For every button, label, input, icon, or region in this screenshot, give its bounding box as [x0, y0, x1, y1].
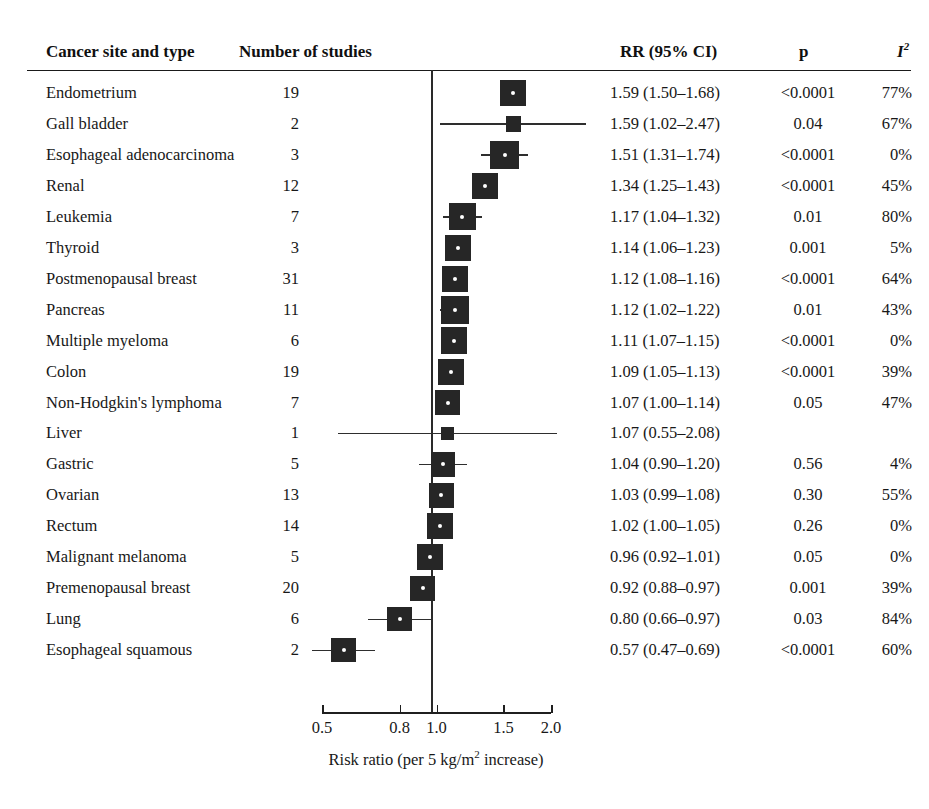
effect-size-point: [453, 277, 457, 281]
header-divider-rule: [27, 70, 911, 71]
row-value-rr-ci: 1.14 (1.06–1.23): [610, 240, 720, 257]
row-value-i-squared: 55%: [860, 487, 912, 504]
x-axis-tick: [503, 705, 505, 713]
column-header-cancer-site: Cancer site and type: [46, 42, 194, 62]
row-value-rr-ci: 0.92 (0.88–0.97): [610, 580, 720, 597]
row-label-cancer-site: Gall bladder: [46, 116, 128, 133]
row-value-i-squared: 84%: [860, 611, 912, 628]
row-label-cancer-site: Rectum: [46, 518, 97, 535]
row-value-i-squared: 47%: [860, 395, 912, 412]
confidence-interval-line: [440, 309, 470, 311]
row-value-i-squared: 39%: [860, 580, 912, 597]
x-axis-tick-label: 0.8: [389, 718, 410, 738]
effect-size-point: [342, 648, 346, 652]
row-value-rr-ci: 0.80 (0.66–0.97): [610, 611, 720, 628]
column-header-i-squared: I2: [897, 40, 909, 62]
row-value-num-studies: 5: [277, 549, 299, 566]
effect-size-point: [456, 246, 460, 250]
i-squared-letter: I: [897, 42, 904, 61]
x-axis-tick: [551, 705, 553, 713]
confidence-interval-line: [415, 588, 431, 590]
row-value-p: 0.01: [760, 209, 856, 226]
forest-plot-figure: Cancer site and type Number of studies R…: [0, 0, 929, 809]
row-value-num-studies: 14: [277, 518, 299, 535]
effect-size-marker: [472, 173, 498, 199]
confidence-interval-line: [437, 526, 445, 528]
effect-size-point: [503, 153, 507, 157]
effect-size-point: [511, 91, 515, 95]
row-label-cancer-site: Lung: [46, 611, 81, 628]
row-value-num-studies: 20: [277, 580, 299, 597]
x-axis-tick: [322, 705, 324, 713]
effect-size-marker: [441, 296, 469, 324]
row-value-rr-ci: 0.96 (0.92–1.01): [610, 549, 720, 566]
column-header-num-studies: Number of studies: [239, 42, 372, 62]
axis-title-main: Risk ratio (per 5 kg/m: [329, 750, 475, 769]
row-value-num-studies: 19: [277, 85, 299, 102]
effect-size-marker: [490, 141, 518, 169]
axis-title-tail: increase): [480, 750, 544, 769]
column-header-p-value: p: [799, 42, 808, 62]
effect-size-marker: [506, 116, 521, 131]
effect-size-marker: [449, 203, 476, 230]
row-value-p: <0.0001: [760, 178, 856, 195]
row-value-num-studies: 13: [277, 487, 299, 504]
effect-size-marker: [435, 390, 461, 416]
row-label-cancer-site: Esophageal squamous: [46, 642, 192, 659]
row-value-rr-ci: 1.17 (1.04–1.32): [610, 209, 720, 226]
row-value-i-squared: 0%: [860, 147, 912, 164]
row-value-i-squared: 64%: [860, 271, 912, 288]
row-value-num-studies: 3: [277, 147, 299, 164]
x-axis-tick-label: 1.5: [493, 718, 514, 738]
row-value-p: <0.0001: [760, 642, 856, 659]
row-value-num-studies: 7: [277, 209, 299, 226]
row-value-num-studies: 6: [277, 333, 299, 350]
row-value-i-squared: 0%: [860, 333, 912, 350]
effect-size-point: [438, 524, 442, 528]
row-value-p: 0.05: [760, 395, 856, 412]
row-value-p: 0.05: [760, 549, 856, 566]
confidence-interval-line: [368, 619, 432, 621]
row-value-p: 0.001: [760, 580, 856, 597]
row-value-p: <0.0001: [760, 271, 856, 288]
row-value-rr-ci: 1.04 (0.90–1.20): [610, 456, 720, 473]
row-value-i-squared: 60%: [860, 642, 912, 659]
row-value-num-studies: 11: [277, 302, 299, 319]
row-label-cancer-site: Colon: [46, 364, 86, 381]
row-value-num-studies: 2: [277, 116, 299, 133]
row-value-p: <0.0001: [760, 147, 856, 164]
x-axis-tick-label: 2.0: [541, 718, 562, 738]
confidence-interval-line: [338, 433, 558, 435]
row-value-p: 0.04: [760, 116, 856, 133]
row-value-p: 0.56: [760, 456, 856, 473]
effect-size-marker: [445, 235, 471, 261]
row-label-cancer-site: Malignant melanoma: [46, 549, 187, 566]
row-label-cancer-site: Leukemia: [46, 209, 112, 226]
row-value-rr-ci: 1.02 (1.00–1.05): [610, 518, 720, 535]
x-axis-tick: [437, 705, 439, 713]
row-value-num-studies: 19: [277, 364, 299, 381]
x-axis-tick-label: 0.5: [312, 718, 333, 738]
row-value-num-studies: 12: [277, 178, 299, 195]
effect-size-marker: [442, 266, 468, 292]
effect-size-point: [483, 184, 487, 188]
row-value-i-squared: 4%: [860, 456, 912, 473]
row-label-cancer-site: Non-Hodgkin's lymphoma: [46, 395, 222, 412]
row-value-p: 0.30: [760, 487, 856, 504]
row-value-i-squared: 67%: [860, 116, 912, 133]
effect-size-point: [398, 617, 402, 621]
effect-size-point: [460, 215, 464, 219]
row-value-i-squared: 39%: [860, 364, 912, 381]
confidence-interval-line: [445, 371, 457, 373]
confidence-interval-line: [503, 93, 522, 95]
row-value-rr-ci: 1.09 (1.05–1.13): [610, 364, 720, 381]
row-value-p: <0.0001: [760, 85, 856, 102]
row-value-rr-ci: 1.34 (1.25–1.43): [610, 178, 720, 195]
confidence-interval-line: [448, 340, 460, 342]
confidence-interval-line: [446, 247, 471, 249]
effect-size-marker: [387, 607, 411, 631]
confidence-interval-line: [473, 185, 495, 187]
effect-size-marker: [410, 576, 435, 601]
row-value-rr-ci: 1.51 (1.31–1.74): [610, 147, 720, 164]
effect-size-point: [421, 586, 425, 590]
